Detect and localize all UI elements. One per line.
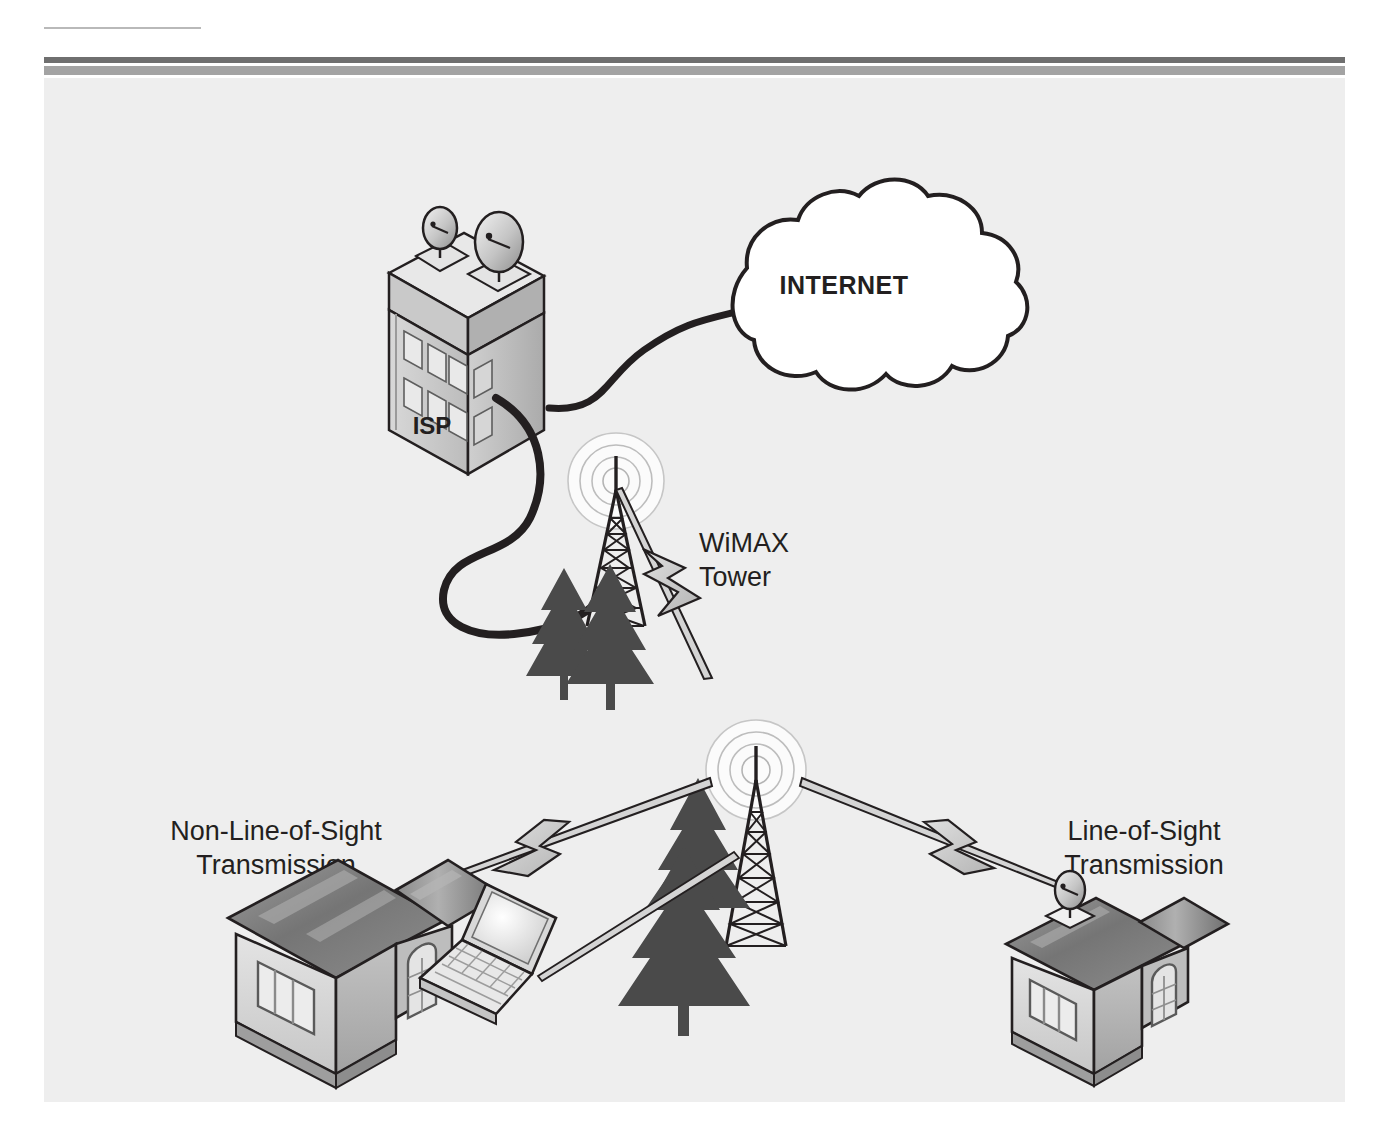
isp-label: ISP: [413, 412, 452, 439]
pine-trees-upper: [526, 564, 654, 710]
house-right-arched-window: [1152, 964, 1176, 1026]
pine-trees-center: [618, 778, 750, 1036]
header-rule-dark: [44, 57, 1345, 63]
internet-cloud: INTERNET: [733, 180, 1028, 390]
cable-isp-to-internet: [549, 310, 744, 408]
house-right-label-line1: Line-of-Sight: [1067, 816, 1221, 846]
lightning-bolt-right: [924, 820, 994, 874]
wimax-tower-label-line1: WiMAX: [699, 528, 789, 558]
internet-label: INTERNET: [780, 271, 909, 299]
lightning-bolt-left: [494, 820, 569, 876]
isp-building: ISP: [389, 207, 544, 474]
wimax-tower-label-line2: Tower: [699, 562, 771, 592]
house-left-label-line1: Non-Line-of-Sight: [170, 816, 382, 846]
beam-relay-to-house-right: [800, 778, 1068, 892]
house-right: Line-of-Sight Transmission: [1006, 816, 1228, 1086]
network-diagram: INTERNET: [44, 78, 1345, 1102]
figure-page: INTERNET: [0, 0, 1400, 1146]
header-rule-light: [44, 66, 1345, 75]
figure-panel: INTERNET: [44, 78, 1345, 1102]
relay-tower: [706, 720, 806, 946]
house-right-label-line2: Transmission: [1064, 850, 1224, 880]
top-hairline-rule: [44, 27, 201, 29]
